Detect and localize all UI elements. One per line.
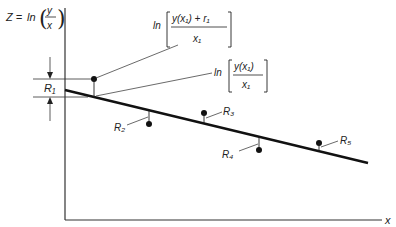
x-axis-label: x xyxy=(384,214,391,226)
svg-text:y(x₁) + r₁: y(x₁) + r₁ xyxy=(171,13,210,24)
svg-text:ln: ln xyxy=(27,11,36,23)
svg-text:R₃: R₃ xyxy=(223,106,234,117)
svg-text:y(x₁): y(x₁) xyxy=(233,61,254,72)
svg-text:ln: ln xyxy=(214,67,222,78)
regression-residual-diagram: x Z = ln ( y x ) R₁ ln y(x₁) + r₁ x₁ xyxy=(0,0,396,227)
svg-text:x₁: x₁ xyxy=(192,33,201,44)
svg-text:Z =: Z = xyxy=(5,11,23,23)
data-point-3: R₃ xyxy=(201,106,234,123)
svg-text:ln: ln xyxy=(153,20,161,31)
data-point-1 xyxy=(91,76,97,97)
svg-text:x₁: x₁ xyxy=(241,79,250,90)
leader-upper xyxy=(96,45,178,78)
r1-dimension: R₁ xyxy=(33,57,93,121)
svg-text:R₅: R₅ xyxy=(340,135,351,146)
annotation-lower: ln y(x₁) x₁ xyxy=(214,60,267,92)
regression-line xyxy=(65,90,368,163)
svg-text:R₄: R₄ xyxy=(222,149,233,160)
svg-text:R₁: R₁ xyxy=(44,82,56,94)
svg-text:y: y xyxy=(46,5,53,16)
svg-text:): ) xyxy=(57,6,66,31)
data-point-5: R₅ xyxy=(316,135,351,151)
data-point-4: R₄ xyxy=(222,137,262,160)
y-axis-label: Z = ln ( y x ) xyxy=(5,5,66,31)
data-point-2: R₂ xyxy=(114,111,152,133)
annotation-upper: ln y(x₁) + r₁ x₁ xyxy=(153,12,231,47)
leader-lower xyxy=(96,73,212,96)
svg-text:x: x xyxy=(46,20,53,31)
svg-text:R₂: R₂ xyxy=(114,122,125,133)
